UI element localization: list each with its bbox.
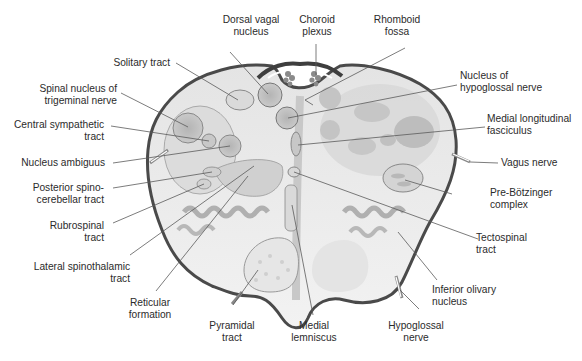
label-rhomboid-fossa: Rhomboid fossa — [362, 14, 432, 38]
label-inferior-olivary-nucleus: Inferior olivary nucleus — [432, 284, 522, 308]
spinal-trigeminal-nucleus-shape — [173, 113, 203, 143]
medulla-cross-section-figure: Dorsal vagal nucleus Choroid plexus Rhom… — [0, 0, 582, 361]
label-posterior-spinocerebellar-tract: Posterior spino- cerebellar tract — [10, 182, 104, 206]
label-vagus-nerve: Vagus nerve — [501, 157, 581, 169]
label-tectospinal-tract: Tectospinal tract — [476, 232, 566, 256]
label-spinal-nucleus-trigeminal: Spinal nucleus of trigeminal nerve — [20, 83, 117, 107]
label-dorsal-vagal-nucleus: Dorsal vagal nucleus — [206, 14, 296, 38]
label-pyramidal-tract: Pyramidal tract — [200, 320, 264, 344]
label-solitary-tract: Solitary tract — [90, 57, 170, 69]
label-reticular-formation: Reticular formation — [118, 297, 182, 321]
solitary-tract-shape — [226, 90, 254, 110]
hypoglossal-nucleus-shape — [276, 107, 298, 129]
choroid-plexus-tufts — [283, 71, 321, 86]
label-lateral-spinothalamic-tract: Lateral spinothalamic tract — [20, 261, 130, 285]
label-choroid-plexus: Choroid plexus — [292, 14, 342, 38]
label-central-sympathetic-tract: Central sympathetic tract — [6, 119, 104, 143]
label-rubrospinal-tract: Rubrospinal tract — [30, 220, 104, 244]
mlf-shape — [291, 132, 301, 156]
label-medial-lemniscus: Medial lemniscus — [282, 320, 346, 344]
label-pre-botzinger-complex: Pre-Bötzinger complex — [490, 187, 580, 211]
label-hypoglossal-nerve: Hypoglossal nerve — [378, 320, 454, 344]
label-nucleus-ambiguus: Nucleus ambiguus — [10, 157, 105, 169]
medial-lemniscus-shape — [285, 185, 297, 231]
label-nucleus-hypoglossal-nerve: Nucleus of hypoglossal nerve — [460, 70, 570, 94]
pre-botzinger-shape — [383, 164, 423, 192]
label-medial-longitudinal-fasciculus: Medial longitudinal fasciculus — [487, 113, 582, 137]
